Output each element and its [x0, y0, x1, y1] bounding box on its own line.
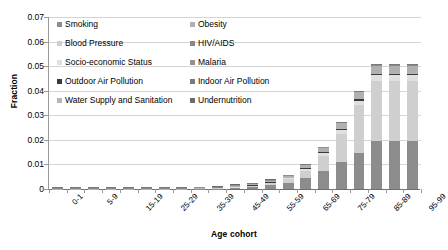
legend-item[interactable]: HIV/AIDS [190, 39, 234, 48]
bar-segment [300, 171, 311, 178]
bar-slot[interactable] [332, 17, 350, 189]
legend-swatch-icon [57, 79, 62, 84]
stacked-bar[interactable] [88, 187, 99, 189]
bar-segment [407, 66, 418, 73]
legend-label: Socio-economic Status [65, 58, 152, 67]
legend-row: Socio-economic StatusMalaria [57, 58, 307, 77]
stacked-bar[interactable] [265, 179, 276, 189]
x-tick-label: 95-99 [427, 192, 448, 213]
bar-slot[interactable] [368, 17, 386, 189]
x-tick-label: 5-9 [106, 192, 121, 207]
bar-segment [318, 171, 329, 189]
x-tick-label: 0-1 [70, 192, 85, 207]
x-tick-label: 35-39 [215, 192, 236, 213]
y-tick-label: 0.06 [18, 38, 44, 47]
stacked-bar[interactable] [283, 175, 294, 189]
legend-item[interactable]: Water Supply and Sanitation [57, 96, 190, 105]
bar-slot[interactable] [350, 17, 368, 189]
legend-label: Water Supply and Sanitation [65, 96, 172, 105]
stacked-bar[interactable] [247, 183, 258, 189]
legend-label: Obesity [198, 20, 227, 29]
bar-segment [407, 81, 418, 141]
stacked-bar[interactable] [70, 187, 81, 189]
legend-swatch-icon [57, 60, 62, 65]
stacked-bar[interactable] [123, 187, 134, 189]
x-axis-title: Age cohort [48, 229, 420, 239]
legend-swatch-icon [190, 79, 195, 84]
bar-segment [389, 141, 400, 189]
x-tick-label: 85-89 [392, 192, 413, 213]
legend-row: Outdoor Air PollutionIndoor Air Pollutio… [57, 77, 307, 96]
x-tick-label: 65-69 [321, 192, 342, 213]
y-tick-mark [44, 91, 48, 92]
x-axis-tick-labels: 0-15-915-1925-2935-3945-4955-5965-6975-7… [48, 190, 420, 230]
legend-swatch-icon [57, 41, 62, 46]
y-tick-label: 0.01 [18, 160, 44, 169]
legend-swatch-icon [190, 22, 195, 27]
stacked-bar[interactable] [52, 187, 63, 189]
y-tick-mark [44, 164, 48, 165]
legend-item[interactable]: Obesity [190, 20, 227, 29]
y-tick-mark [44, 189, 48, 190]
stacked-bar[interactable] [354, 91, 365, 189]
stacked-bar[interactable] [407, 64, 418, 189]
legend-item[interactable]: Undernutrition [190, 96, 251, 105]
legend-item[interactable]: Smoking [57, 20, 190, 29]
y-tick-mark [44, 115, 48, 116]
bar-segment [354, 105, 365, 153]
legend-item[interactable]: Malaria [190, 58, 226, 67]
bar-slot[interactable] [315, 17, 333, 189]
bar-segment [230, 188, 241, 189]
x-tick-label: 25-29 [179, 192, 200, 213]
x-tick-label: 45-49 [250, 192, 271, 213]
y-tick-label: 0.04 [18, 87, 44, 96]
stacked-bar[interactable] [176, 187, 187, 189]
stacked-bar[interactable] [336, 122, 347, 189]
legend-swatch-icon [57, 22, 62, 27]
stacked-bar[interactable] [212, 186, 223, 189]
y-tick-label: 0.07 [18, 13, 44, 22]
stacked-bar[interactable] [318, 147, 329, 189]
x-tick-label: 15-19 [144, 192, 165, 213]
legend-label: Outdoor Air Pollution [65, 77, 143, 86]
bar-segment [371, 81, 382, 141]
stacked-bar[interactable] [159, 187, 170, 189]
legend-label: Malaria [198, 58, 226, 67]
stacked-bar[interactable] [300, 164, 311, 189]
stacked-bar[interactable] [106, 187, 117, 189]
y-tick-label: 0 [18, 185, 44, 194]
legend-swatch-icon [190, 41, 195, 46]
legend-item[interactable]: Socio-economic Status [57, 58, 190, 67]
legend-label: HIV/AIDS [198, 39, 234, 48]
stacked-bar[interactable] [230, 184, 241, 189]
stacked-bar[interactable] [389, 64, 400, 189]
bar-slot[interactable] [403, 17, 421, 189]
bar-segment [247, 187, 258, 189]
legend-row: Blood PressureHIV/AIDS [57, 39, 307, 58]
stacked-bar[interactable] [371, 64, 382, 189]
legend-label: Blood Pressure [65, 39, 123, 48]
bar-segment [318, 156, 329, 171]
bar-segment [336, 162, 347, 189]
x-tick-mark [421, 189, 422, 193]
y-tick-mark [44, 66, 48, 67]
legend-row: Water Supply and SanitationUndernutritio… [57, 96, 307, 115]
legend-row: SmokingObesity [57, 20, 307, 39]
y-tick-mark [44, 140, 48, 141]
bar-segment [371, 141, 382, 189]
y-tick-label: 0.02 [18, 136, 44, 145]
bar-slot[interactable] [386, 17, 404, 189]
legend-swatch-icon [190, 98, 195, 103]
stacked-bar[interactable] [141, 187, 152, 189]
legend-label: Undernutrition [198, 96, 251, 105]
stacked-bar[interactable] [194, 187, 205, 189]
bar-segment [336, 134, 347, 162]
bar-segment [389, 81, 400, 141]
legend-item[interactable]: Indoor Air Pollution [190, 77, 269, 86]
legend-item[interactable]: Outdoor Air Pollution [57, 77, 190, 86]
y-axis-tick-labels: 0.070.060.050.040.030.020.010 [16, 0, 44, 250]
bar-segment [283, 183, 294, 189]
legend-item[interactable]: Blood Pressure [57, 39, 190, 48]
bar-segment [407, 141, 418, 189]
